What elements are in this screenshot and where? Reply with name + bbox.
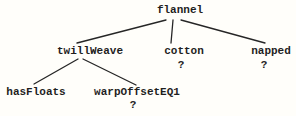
edge-flannel-cotton: [171, 20, 173, 43]
node-twillweave: twillWeave: [57, 45, 123, 58]
edge-twillweave-hasfloats: [34, 59, 78, 84]
node-warpoffseteq1: warpOffsetEQ1: [94, 86, 180, 99]
node-flannel: flannel: [157, 4, 203, 17]
edge-twillweave-warpoffseteq1: [83, 59, 136, 85]
uncertainty-mark-napped: ?: [261, 59, 268, 72]
node-hasfloats: hasFloats: [6, 86, 65, 99]
edge-flannel-napped: [181, 20, 265, 43]
decision-tree-diagram: flannel twillWeave cotton napped hasFloa…: [0, 0, 296, 116]
uncertainty-mark-cotton: ?: [178, 59, 185, 72]
node-napped: napped: [251, 45, 291, 58]
edge-flannel-twillweave: [77, 20, 166, 43]
uncertainty-mark-warpoffseteq1: ?: [130, 99, 137, 112]
node-cotton: cotton: [164, 45, 204, 58]
